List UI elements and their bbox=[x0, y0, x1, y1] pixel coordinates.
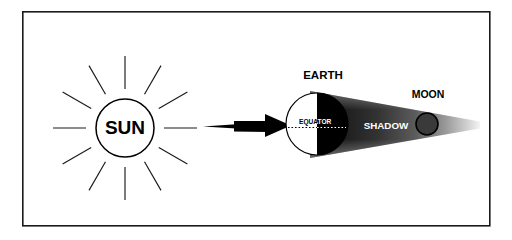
sun-label: SUN bbox=[105, 117, 145, 138]
lunar-eclipse-diagram: SUN EQUATOR E bbox=[0, 0, 512, 240]
moon-circle bbox=[416, 113, 438, 135]
earth-label: EARTH bbox=[303, 69, 343, 81]
diagram-canvas: SUN EQUATOR E bbox=[0, 0, 512, 240]
moon-label: MOON bbox=[412, 88, 445, 100]
shadow-label: SHADOW bbox=[364, 120, 409, 131]
